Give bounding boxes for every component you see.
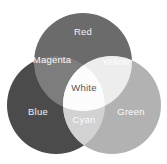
label-blue: Blue	[28, 106, 48, 117]
label-white: White	[71, 82, 96, 93]
label-yellow: Yellow	[102, 56, 130, 67]
venn-diagram-canvas: Red Magenta Yellow White Blue Cyan Green	[0, 0, 167, 164]
label-cyan: Cyan	[73, 114, 96, 125]
label-red: Red	[74, 26, 92, 37]
venn-diagram-figure: Red Magenta Yellow White Blue Cyan Green	[0, 0, 167, 164]
label-magenta: Magenta	[33, 54, 72, 65]
label-green: Green	[117, 106, 144, 117]
